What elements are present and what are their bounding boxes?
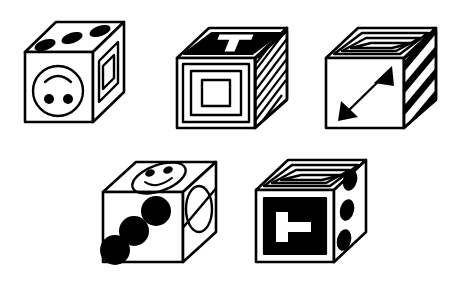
- figure-root: Five isometric cubes with patterned face…: [0, 0, 466, 288]
- cube-4: [100, 156, 218, 265]
- cube-5-front-rotated-letter-t-on-black: [264, 198, 326, 254]
- cube-3: [326, 0, 444, 140]
- cube-2-face-front: [177, 58, 255, 128]
- cube-2: [177, 22, 292, 135]
- cube-5: [256, 160, 366, 262]
- cubes-illustration: Five isometric cubes with patterned face…: [0, 0, 466, 288]
- cube-1: [25, 22, 124, 122]
